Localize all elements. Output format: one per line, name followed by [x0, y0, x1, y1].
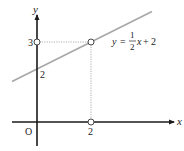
equation-const: 2	[151, 36, 156, 47]
y-tick-3-label: 3	[28, 37, 33, 48]
equation-label: y = 1 2 x + 2	[111, 30, 156, 52]
equation-frac-num: 1	[130, 30, 135, 40]
y-tick-2-label: 2	[40, 69, 45, 80]
x-axis-label: x	[176, 115, 182, 127]
equation-equals: =	[120, 36, 126, 47]
origin-label: O	[25, 126, 32, 137]
equation-var: x	[136, 36, 142, 47]
point-0-3	[34, 39, 40, 45]
y-axis-label: y	[32, 3, 38, 15]
coordinate-plane: y x O 3 2 2 y = 1 2 x + 2	[0, 0, 184, 151]
point-2-0	[88, 119, 94, 125]
equation-plus: +	[143, 36, 149, 47]
equation-frac-den: 2	[130, 42, 135, 52]
point-2-3	[88, 39, 94, 45]
x-tick-2-label: 2	[88, 126, 93, 137]
equation-lhs: y	[111, 36, 117, 47]
